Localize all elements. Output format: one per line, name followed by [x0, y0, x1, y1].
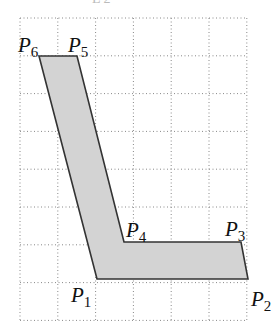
vertex-label-p4: P4	[125, 218, 147, 245]
vertex-label-p6: P6	[17, 33, 39, 60]
polygon-grid-diagram: P1P2P3P4P5P6	[0, 0, 272, 330]
vertex-label-p3: P3	[224, 217, 245, 244]
vertex-label-p1: P1	[70, 283, 91, 310]
vertex-label-p5: P5	[67, 33, 88, 60]
vertex-label-p2: P2	[250, 287, 271, 314]
l-shaped-polygon	[39, 56, 248, 279]
